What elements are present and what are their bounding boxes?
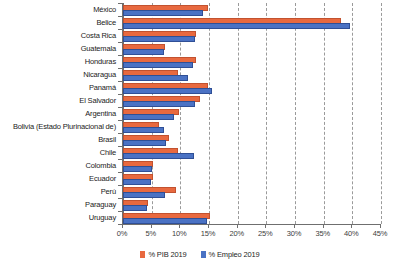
x-axis-tick-label: 20% [222,229,252,238]
x-axis-tick-label: 30% [279,229,309,238]
category-label: Brasil [98,135,116,144]
bar-empleo [123,127,164,133]
category-label: Costa Rica [81,31,116,40]
bar-empleo [123,179,151,185]
x-axis-tick-label: 10% [164,229,194,238]
axis-tick [208,224,209,228]
category-label: Bolivia (Estado Plurinacional de) [13,122,116,131]
x-axis-tick-label: 0% [107,229,137,238]
legend-item-pib[interactable]: % PIB 2019 [140,250,186,259]
x-axis-tick-label: 25% [250,229,280,238]
axis-tick [323,224,324,228]
legend-item-empleo[interactable]: % Empleo 2019 [201,250,260,259]
bar-empleo [123,192,165,198]
category-label: Nicaragua [83,70,116,79]
category-axis-tick [118,185,122,186]
category-axis-tick [118,120,122,121]
category-label: Honduras [85,57,116,66]
gridline-40% [352,3,353,224]
category-axis-tick [118,42,122,43]
gridline-35% [324,3,325,224]
gridline-25% [266,3,267,224]
category-axis-tick [118,198,122,199]
gridline-20% [238,3,239,224]
x-axis-tick-label: 40% [336,229,366,238]
category-axis-tick [118,146,122,147]
x-axis-tick-label: 45% [365,229,395,238]
axis-tick [237,224,238,228]
bar-empleo [123,36,195,42]
chart-legend: % PIB 2019% Empleo 2019 [0,250,400,259]
value-axis-line [122,224,381,225]
gridline-45% [381,3,382,224]
category-label: El Salvador [79,96,116,105]
category-label: Chile [100,148,116,157]
plot-area [122,3,380,224]
bar-empleo [123,23,350,29]
category-label: Perú [101,187,116,196]
category-label: México [93,5,116,14]
bar-empleo [123,140,166,146]
category-axis-tick [118,107,122,108]
category-axis-tick [118,94,122,95]
bar-empleo [123,166,152,172]
axis-tick [122,224,123,228]
category-axis-tick [118,81,122,82]
category-label: Argentina [85,109,116,118]
category-axis-tick [118,172,122,173]
category-label: Paraguay [85,200,116,209]
category-label: Panamá [89,83,116,92]
category-label: Guatemala [81,44,116,53]
axis-tick [294,224,295,228]
horizontal-bar-chart: MéxicoBeliceCosta RicaGuatemalaHondurasN… [0,0,400,269]
category-axis: MéxicoBeliceCosta RicaGuatemalaHondurasN… [0,3,119,224]
legend-swatch-empleo-icon [201,251,206,258]
axis-tick [351,224,352,228]
category-axis-tick [118,159,122,160]
category-label: Ecuador [89,174,116,183]
bar-empleo [123,49,164,55]
category-axis-tick [118,55,122,56]
category-axis-tick [118,224,122,225]
axis-tick [380,224,381,228]
x-axis-tick-label: 5% [136,229,166,238]
category-axis-tick [118,29,122,30]
category-label: Uruguay [89,213,116,222]
gridline-30% [295,3,296,224]
x-axis-tick-label: 15% [193,229,223,238]
bar-empleo [123,153,194,159]
bar-empleo [123,75,188,81]
x-axis-tick-label: 35% [308,229,338,238]
bar-empleo [123,88,212,94]
bar-empleo [123,114,174,120]
axis-tick [151,224,152,228]
bar-empleo [123,218,207,224]
gridline-15% [209,3,210,224]
category-label: Belice [96,18,116,27]
bar-empleo [123,10,203,16]
bar-empleo [123,205,147,211]
category-axis-tick [118,211,122,212]
category-axis-tick [118,68,122,69]
legend-swatch-pib-icon [140,251,145,258]
legend-label: % PIB 2019 [148,250,186,259]
category-label: Colombia [86,161,116,170]
category-axis-tick [118,3,122,4]
axis-tick [265,224,266,228]
legend-label: % Empleo 2019 [209,250,260,259]
category-axis-tick [118,133,122,134]
axis-tick [179,224,180,228]
bar-empleo [123,62,193,68]
category-axis-tick [118,16,122,17]
bar-empleo [123,101,195,107]
